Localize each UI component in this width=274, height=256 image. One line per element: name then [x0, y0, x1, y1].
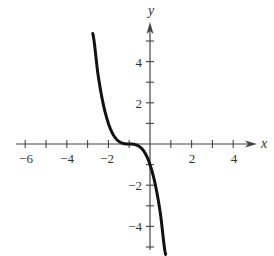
y-tick-label: −2	[128, 178, 142, 193]
y-tick-label: 2	[136, 96, 143, 111]
y-tick-label: 4	[136, 55, 143, 70]
x-tick-label: −4	[60, 151, 74, 166]
x-axis-label: x	[260, 136, 268, 151]
x-tick-label: 2	[189, 151, 196, 166]
x-tick-label: 4	[231, 151, 238, 166]
y-tick-label: −4	[128, 219, 142, 234]
function-graph: −6 −4 −2 2 4 4 2 −2 −4 x y	[0, 0, 274, 256]
y-axis-label: y	[146, 3, 155, 18]
x-tick-label: −2	[100, 151, 114, 166]
x-tick-label: −6	[19, 151, 33, 166]
